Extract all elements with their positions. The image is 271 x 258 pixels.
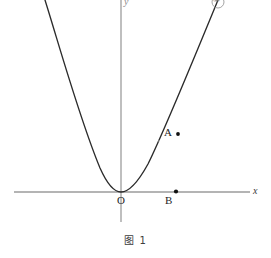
scan-speck <box>158 140 159 141</box>
point-a-marker <box>176 132 180 136</box>
figure-caption: 图 1 <box>0 232 271 247</box>
point-b-label: B <box>165 195 172 206</box>
parabola-plot <box>0 0 271 258</box>
figure-container: y x O A B ① 图 1 <box>0 0 271 258</box>
point-a-label: A <box>164 127 172 138</box>
point-b-marker <box>174 189 178 193</box>
origin-label: O <box>117 195 125 206</box>
parabola-curve <box>45 0 218 192</box>
curve-id-label: ① <box>212 0 221 4</box>
y-axis-label: y <box>124 0 128 7</box>
x-axis-label: x <box>253 186 257 196</box>
